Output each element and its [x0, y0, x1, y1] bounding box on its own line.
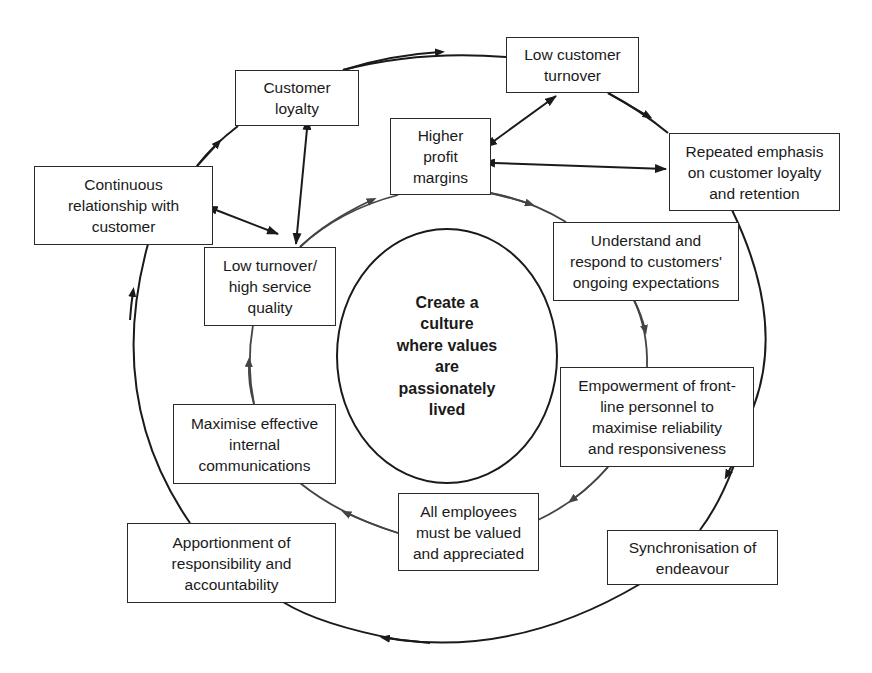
node-synchronisation: Synchronisation of endeavour [607, 530, 778, 585]
culture-cycle-diagram: Create a culture where values are passio… [0, 0, 872, 673]
node-low-customer-turnover: Low customer turnover [506, 37, 639, 93]
node-understand-respond: Understand and respond to customers' ong… [553, 222, 739, 301]
node-repeated-emphasis: Repeated emphasis on customer loyalty an… [669, 133, 840, 211]
node-low-turnover-high-service: Low turnover/ high service quality [204, 247, 336, 326]
node-higher-profit-margins: Higher profit margins [390, 118, 491, 195]
node-maximise-communications: Maximise effective internal communicatio… [173, 404, 336, 484]
node-apportionment: Apportionment of responsibility and acco… [127, 523, 336, 603]
node-continuous-relationship: Continuous relationship with customer [34, 166, 213, 245]
node-all-employees-valued: All employees must be valued and appreci… [398, 493, 539, 571]
center-statement: Create a culture where values are passio… [357, 266, 537, 446]
node-empowerment: Empowerment of front- line personnel to … [560, 367, 754, 467]
node-customer-loyalty: Customer loyalty [235, 70, 359, 126]
